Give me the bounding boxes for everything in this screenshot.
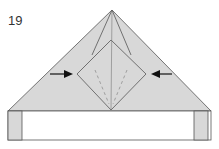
right-flap bbox=[194, 111, 208, 140]
paper-bottom-band bbox=[8, 111, 211, 140]
origami-diagram bbox=[0, 0, 219, 149]
left-flap bbox=[8, 111, 22, 140]
